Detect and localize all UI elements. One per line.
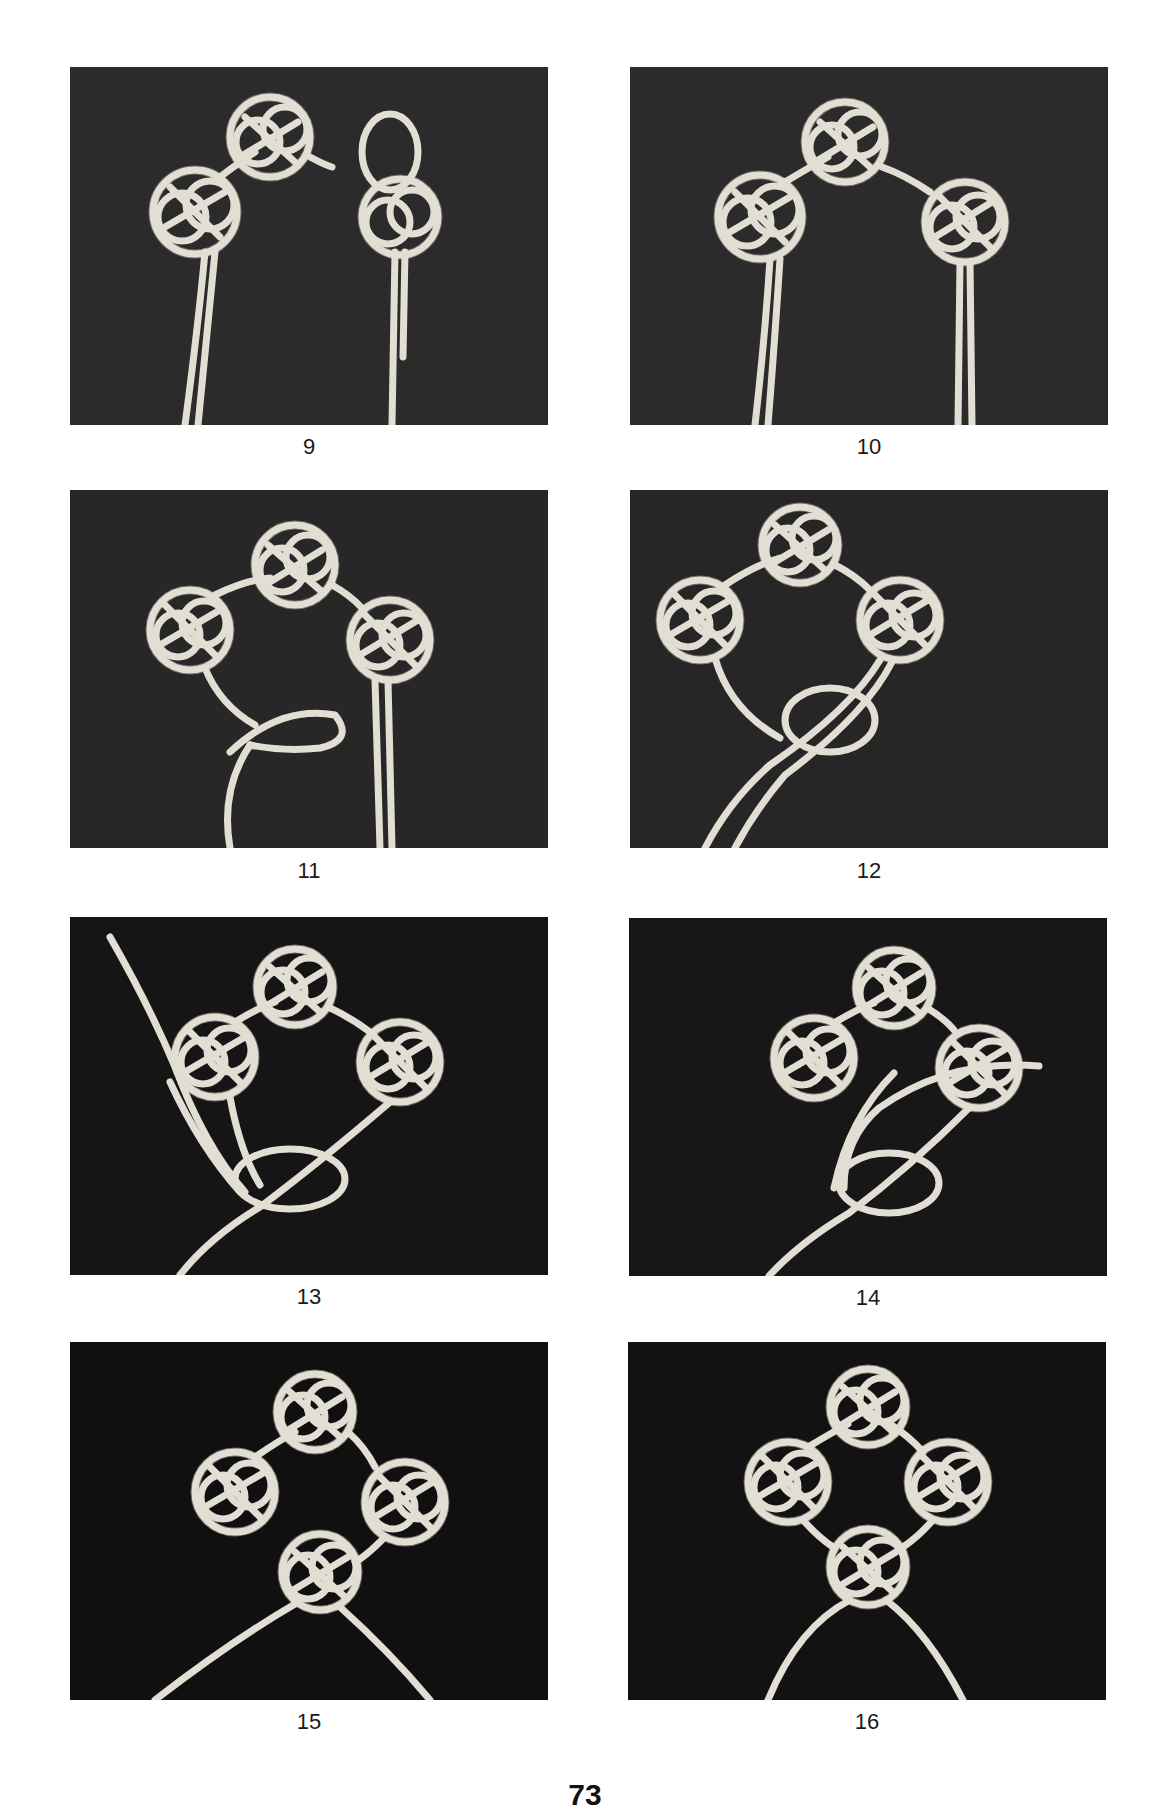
knot-step-9-image (70, 67, 548, 425)
figure-14-caption: 14 (629, 1285, 1107, 1311)
figure-9-photo (70, 67, 548, 425)
knot-step-16-image (628, 1342, 1106, 1700)
figure-16-photo (628, 1342, 1106, 1700)
figure-12-photo (630, 490, 1108, 848)
knot-step-11-image (70, 490, 548, 848)
figure-11-photo (70, 490, 548, 848)
figure-9-caption: 9 (70, 434, 548, 460)
figure-14-photo (629, 918, 1107, 1276)
knot-step-13-image (70, 917, 548, 1275)
figure-11-caption: 11 (70, 858, 548, 884)
figure-13-caption: 13 (70, 1284, 548, 1310)
figure-12-caption: 12 (630, 858, 1108, 884)
figure-15-photo (70, 1342, 548, 1700)
knot-step-15-image (70, 1342, 548, 1700)
knot-step-14-image (629, 918, 1107, 1276)
figure-15-caption: 15 (70, 1709, 548, 1735)
knot-step-12-image (630, 490, 1108, 848)
figure-16-caption: 16 (628, 1709, 1106, 1735)
figure-10-photo (630, 67, 1108, 425)
figure-13-photo (70, 917, 548, 1275)
knot-step-10-image (630, 67, 1108, 425)
figure-10-caption: 10 (630, 434, 1108, 460)
page-number: 73 (0, 1778, 1170, 1809)
